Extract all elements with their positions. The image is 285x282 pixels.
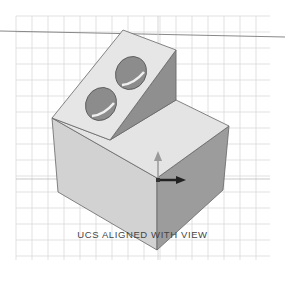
drawing-viewport[interactable]: UCS ALIGNED WITH VIEW bbox=[0, 0, 285, 282]
viewport-caption: UCS ALIGNED WITH VIEW bbox=[0, 229, 285, 240]
